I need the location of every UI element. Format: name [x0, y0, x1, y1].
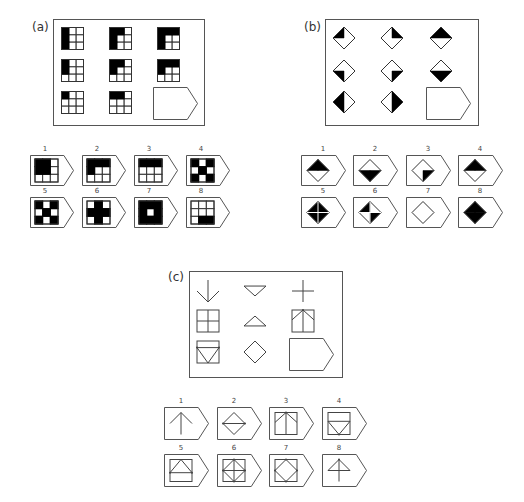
answer-option-7[interactable]: [134, 197, 178, 228]
grid-figure: [109, 91, 132, 114]
option-number: 2: [369, 145, 381, 153]
grid-figure: [109, 27, 132, 50]
option-number: 4: [195, 145, 207, 153]
option-number: 8: [333, 444, 345, 452]
answer-option-3[interactable]: [134, 155, 178, 186]
option-number: 8: [195, 187, 207, 195]
diamond-figure: [380, 26, 404, 50]
option-number: 7: [422, 187, 434, 195]
diamond-figure: [332, 90, 356, 114]
option-number: 6: [91, 187, 103, 195]
square-quartered-figure: [195, 308, 221, 334]
option-number: 4: [474, 145, 486, 153]
diamond-figure: [332, 26, 356, 50]
option-number: 6: [228, 444, 240, 452]
answer-option-8[interactable]: [458, 197, 503, 228]
grid-figure: [61, 91, 84, 114]
grid-figure: [157, 27, 180, 50]
option-number: 5: [317, 187, 329, 195]
answer-option-7[interactable]: [269, 454, 314, 487]
diamond-figure: [380, 59, 404, 83]
option-number: 8: [474, 187, 486, 195]
answer-option-4[interactable]: [458, 155, 503, 186]
option-number: 5: [175, 444, 187, 452]
option-number: 2: [91, 145, 103, 153]
panel-a-label: (a): [32, 20, 49, 34]
answer-option-6[interactable]: [217, 454, 262, 487]
answer-option-1[interactable]: [30, 155, 74, 186]
triangle-down-figure: [242, 278, 268, 304]
answer-option-4[interactable]: [322, 407, 367, 440]
diamond-figure: [429, 59, 453, 83]
grid-figure: [157, 59, 180, 82]
option-number: 6: [369, 187, 381, 195]
panel-b-label: (b): [304, 20, 321, 34]
option-number: 1: [175, 397, 187, 405]
diamond-figure: [429, 26, 453, 50]
answer-option-5[interactable]: [30, 197, 74, 228]
option-number: 3: [280, 397, 292, 405]
plus-figure: [290, 278, 316, 304]
answer-option-1[interactable]: [164, 407, 209, 440]
option-number: 3: [143, 145, 155, 153]
arrow-down-figure: [195, 278, 221, 304]
answer-slot[interactable]: [289, 338, 334, 371]
grid-figure: [61, 59, 84, 82]
grid-figure: [61, 27, 84, 50]
answer-option-7[interactable]: [406, 197, 451, 228]
answer-option-2[interactable]: [217, 407, 262, 440]
answer-option-5[interactable]: [301, 197, 346, 228]
option-number: 1: [39, 145, 51, 153]
diamond-figure: [242, 339, 268, 365]
answer-option-8[interactable]: [322, 454, 367, 487]
answer-option-6[interactable]: [353, 197, 398, 228]
diamond-figure: [332, 59, 356, 83]
answer-option-3[interactable]: [269, 407, 314, 440]
diamond-figure: [380, 90, 404, 114]
square-triangle-down-figure: [195, 339, 221, 365]
option-number: 7: [143, 187, 155, 195]
answer-option-4[interactable]: [186, 155, 230, 186]
answer-slot[interactable]: [426, 87, 471, 120]
answer-option-2[interactable]: [82, 155, 126, 186]
answer-option-3[interactable]: [406, 155, 451, 186]
answer-option-6[interactable]: [82, 197, 126, 228]
grid-figure: [109, 59, 132, 82]
answer-option-8[interactable]: [186, 197, 230, 228]
option-number: 4: [333, 397, 345, 405]
option-number: 5: [39, 187, 51, 195]
answer-option-1[interactable]: [301, 155, 346, 186]
option-number: 7: [280, 444, 292, 452]
panel-c-label: (c): [168, 270, 184, 284]
square-arrow-up-figure: [290, 308, 316, 334]
answer-slot[interactable]: [153, 87, 198, 120]
option-number: 2: [228, 397, 240, 405]
answer-option-2[interactable]: [353, 155, 398, 186]
answer-option-5[interactable]: [164, 454, 209, 487]
option-number: 3: [422, 145, 434, 153]
triangle-up-figure: [242, 308, 268, 334]
option-number: 1: [317, 145, 329, 153]
